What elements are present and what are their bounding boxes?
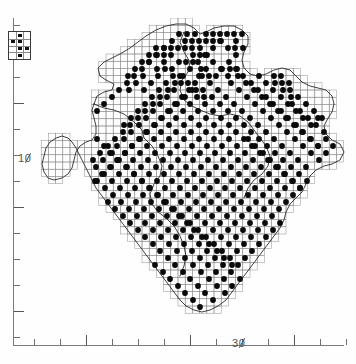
record-dot	[121, 136, 127, 142]
record-dot	[182, 94, 188, 100]
record-dot	[189, 143, 195, 149]
record-dot	[242, 150, 248, 156]
record-dot	[218, 234, 224, 240]
record-dot	[161, 171, 167, 177]
record-dot	[190, 157, 196, 163]
record-dot	[213, 269, 219, 275]
record-dot	[229, 262, 235, 268]
record-dot	[278, 73, 284, 79]
record-dot	[207, 80, 213, 86]
record-dot	[210, 31, 216, 37]
record-dot	[263, 80, 269, 86]
record-dot	[293, 122, 299, 128]
record-dot	[180, 269, 186, 275]
record-dot	[194, 213, 200, 219]
record-dot	[154, 178, 160, 184]
record-dot	[194, 94, 200, 100]
record-dot	[237, 276, 243, 282]
y-axis-tick	[14, 285, 20, 286]
record-dot	[196, 136, 202, 142]
x-axis-tick	[164, 339, 165, 345]
record-dot	[233, 52, 239, 58]
record-dot	[202, 290, 208, 296]
record-dot	[248, 129, 254, 135]
record-dot	[240, 45, 246, 51]
record-dot	[175, 45, 181, 51]
record-dot	[152, 262, 158, 268]
record-dot	[189, 38, 195, 44]
record-dot	[221, 255, 227, 261]
record-dot	[225, 108, 231, 114]
record-dot	[313, 122, 319, 128]
record-dot	[146, 171, 152, 177]
record-dot	[168, 52, 174, 58]
record-dot	[132, 66, 138, 72]
record-dot	[189, 248, 195, 254]
record-dot	[124, 80, 130, 86]
record-dot	[93, 164, 99, 170]
record-dot	[270, 87, 276, 93]
record-dot	[156, 87, 162, 93]
record-dot	[220, 262, 226, 268]
record-dot	[201, 94, 207, 100]
record-dot	[176, 171, 182, 177]
record-dot	[293, 108, 299, 114]
record-dot	[191, 227, 197, 233]
y-axis-tick-label-10: 10	[18, 152, 31, 164]
record-dot	[149, 94, 155, 100]
record-dot	[251, 171, 257, 177]
record-dot	[218, 129, 224, 135]
record-dot	[177, 185, 183, 191]
record-dot	[311, 108, 317, 114]
record-dot	[164, 94, 170, 100]
record-dot	[171, 87, 177, 93]
record-dots	[90, 31, 336, 310]
record-dot	[178, 199, 184, 205]
record-dot	[222, 185, 228, 191]
record-dot	[165, 227, 171, 233]
record-dot	[137, 136, 143, 142]
record-dot	[190, 297, 196, 303]
record-dot	[120, 129, 126, 135]
x-axis-tick	[216, 339, 217, 345]
record-dot	[110, 192, 116, 198]
record-dot	[204, 143, 210, 149]
record-dot	[213, 73, 219, 79]
record-dot	[287, 150, 293, 156]
record-dot	[157, 248, 163, 254]
record-dot	[109, 150, 115, 156]
record-dot	[131, 73, 137, 79]
record-dot	[209, 213, 215, 219]
record-dot	[215, 87, 221, 93]
record-dot	[210, 227, 216, 233]
y-axis-tick	[14, 259, 20, 260]
record-dot	[229, 178, 235, 184]
record-dot	[181, 241, 187, 247]
y-axis-tick	[14, 181, 20, 182]
record-dot	[190, 59, 196, 65]
record-dot	[263, 129, 269, 135]
record-dot	[198, 164, 204, 170]
record-dot	[145, 157, 151, 163]
record-dot	[253, 199, 259, 205]
record-dot	[305, 115, 311, 121]
y-axis-tick	[14, 129, 20, 130]
record-dot	[170, 73, 176, 79]
record-dot	[234, 143, 240, 149]
record-dot	[248, 80, 254, 86]
record-dot	[290, 178, 296, 184]
record-dot	[161, 52, 167, 58]
map-plot-area	[34, 18, 346, 338]
record-dot	[224, 213, 230, 219]
record-dot	[231, 31, 237, 37]
record-dot	[182, 45, 188, 51]
record-dot	[146, 52, 152, 58]
record-dot	[188, 115, 194, 121]
record-dot	[124, 164, 130, 170]
record-dot	[159, 115, 165, 121]
record-dot	[252, 101, 258, 107]
record-dot	[197, 45, 203, 51]
record-dot	[219, 143, 225, 149]
record-dot	[184, 178, 190, 184]
record-dot	[295, 94, 301, 100]
